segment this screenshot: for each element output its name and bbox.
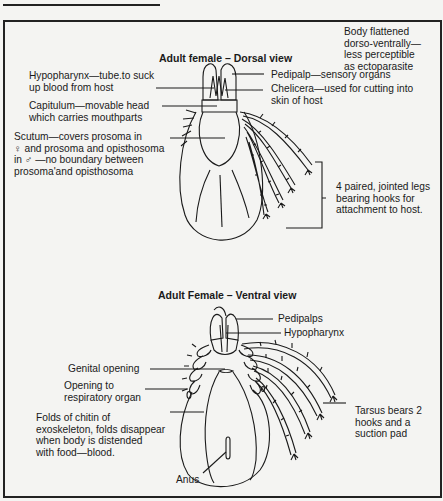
label-tarsus: Tarsus bears 2 hooks and a suction pad (355, 405, 422, 440)
label-scutum: Scutum—covers prosoma in ♀ and prosoma a… (14, 131, 164, 177)
label-folds-of-chitin: Folds of chitin of exoskeleton, folds di… (36, 412, 165, 458)
label-hypopharynx-ventral: Hypopharynx (284, 327, 344, 339)
ventral-view-title: Adult Female – Ventral view (158, 289, 296, 301)
label-capitulum: Capitulum—movable head which carries mou… (29, 100, 149, 123)
body-flattened-note: Body flattened dorso-ventrally— less per… (344, 26, 421, 72)
label-hypopharynx-dorsal: Hypopharynx—tube.to suck up blood from h… (29, 70, 154, 93)
label-respiratory-opening: Opening to respiratory organ (64, 380, 141, 403)
label-pedipalp: Pedipalp—sensory organs (271, 69, 391, 81)
dorsal-view-title: Adult female – Dorsal view (159, 52, 292, 64)
label-genital-opening: Genital opening (68, 363, 139, 375)
dorsal-legs (240, 112, 312, 219)
legs-bracket (286, 162, 326, 228)
label-anus: Anus (176, 474, 199, 486)
label-pedipalps: Pedipalps (278, 313, 323, 325)
label-legs: 4 paired, jointed legs bearing hooks for… (336, 181, 430, 216)
label-chelicera: Chelicera—used for cutting into skin of … (271, 83, 413, 106)
